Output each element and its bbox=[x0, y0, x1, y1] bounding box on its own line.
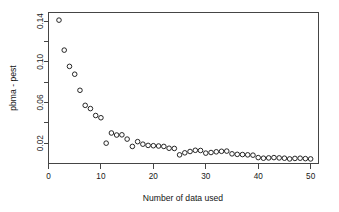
x-tick-label-40: 40 bbox=[254, 172, 264, 181]
x-tick-label-20: 20 bbox=[149, 172, 159, 181]
figure-background bbox=[0, 0, 339, 212]
chart-figure: 01020304050 0.020.060.100.14 Number of d… bbox=[0, 0, 339, 212]
y-tick-label-0.14: 0.14 bbox=[37, 13, 46, 29]
y-tick-label-0.02: 0.02 bbox=[37, 135, 46, 151]
scatter-plot-svg: 01020304050 0.020.060.100.14 Number of d… bbox=[0, 0, 339, 212]
x-axis-title: Number of data used bbox=[143, 193, 223, 203]
x-tick-label-30: 30 bbox=[201, 172, 211, 181]
y-tick-label-0.10: 0.10 bbox=[37, 53, 46, 69]
y-axis-title: pbma - pest bbox=[8, 65, 18, 111]
x-tick-label-0: 0 bbox=[46, 172, 51, 181]
x-tick-label-50: 50 bbox=[306, 172, 316, 181]
y-tick-label-0.06: 0.06 bbox=[37, 94, 46, 110]
x-tick-label-10: 10 bbox=[96, 172, 106, 181]
